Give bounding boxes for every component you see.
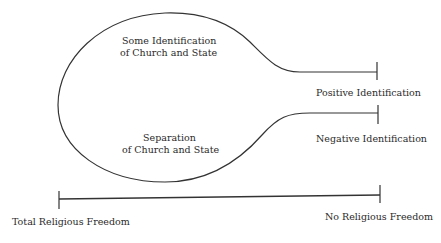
bulb-upper-label-line1: Some Identification <box>122 35 216 46</box>
bulb-lower-label-line1: Separation <box>143 132 196 143</box>
church-state-diagram <box>0 0 441 243</box>
positive-identification-label: Positive Identification <box>316 87 421 98</box>
freedom-axis-line <box>59 195 380 199</box>
bulb-upper-label-line2: of Church and State <box>120 47 217 58</box>
no-religious-freedom-label: No Religious Freedom <box>325 211 433 222</box>
negative-identification-label: Negative Identification <box>316 133 427 144</box>
bulb-lower-label-line2: of Church and State <box>122 144 219 155</box>
total-religious-freedom-label: Total Religious Freedom <box>12 216 130 227</box>
